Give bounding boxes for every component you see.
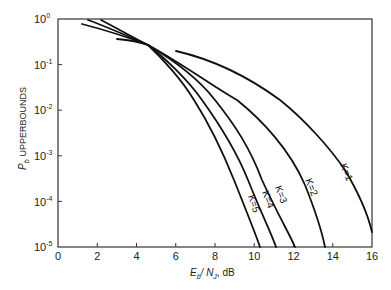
chart-canvas: 100 10-1 10-2 10-3 10-4 10-5 0 2 4 6 8 1…: [0, 0, 391, 290]
svg-text:16: 16: [366, 250, 378, 262]
svg-text:12: 12: [287, 250, 299, 262]
svg-text:10-1: 10-1: [34, 58, 53, 71]
curve-k3: [82, 24, 295, 247]
svg-text:10-4: 10-4: [34, 195, 53, 208]
svg-text:6: 6: [173, 250, 179, 262]
label-k1: K=1: [338, 162, 355, 183]
curves: [82, 20, 372, 247]
svg-text:10-2: 10-2: [34, 103, 53, 116]
x-axis-ticks: [97, 243, 333, 247]
x-axis-tick-labels: 0 2 4 6 8 10 12 14 16: [55, 250, 378, 262]
svg-text:8: 8: [212, 250, 218, 262]
svg-text:2: 2: [94, 250, 100, 262]
svg-text:0: 0: [55, 250, 61, 262]
y-axis-tick-labels: 100 10-1 10-2 10-3 10-4 10-5: [34, 12, 53, 253]
svg-text:14: 14: [327, 250, 339, 262]
x-axis-title: Eb/ NJ, dB: [190, 267, 235, 280]
curve-labels: K=1 K=2 K=3 K=4 K=5: [246, 162, 355, 215]
svg-text:10-5: 10-5: [34, 240, 53, 253]
svg-text:100: 100: [34, 12, 50, 25]
svg-text:10-3: 10-3: [34, 149, 53, 162]
y-axis-title: PbUPPERBOUNDS: [17, 87, 30, 170]
plot-frame: [58, 19, 372, 247]
label-k5: K=5: [246, 193, 262, 214]
svg-text:4: 4: [133, 250, 139, 262]
svg-text:10: 10: [248, 250, 260, 262]
